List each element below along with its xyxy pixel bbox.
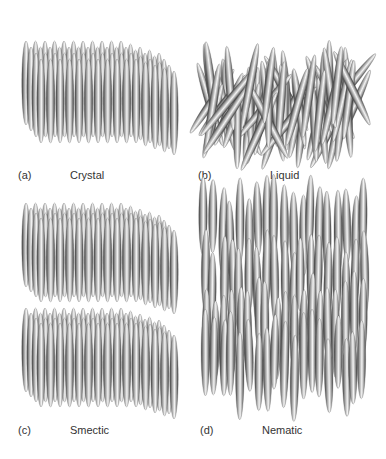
- molecule-rod: [94, 59, 102, 143]
- panel-a-letter: (a): [18, 169, 31, 181]
- panel-c-name: Smectic: [70, 424, 109, 436]
- molecule-rod: [122, 59, 130, 143]
- molecule-rod: [103, 323, 111, 407]
- molecule-rod: [160, 68, 168, 152]
- molecule-rod: [65, 59, 73, 143]
- molecule-rod: [132, 323, 140, 407]
- panel-smectic: [18, 190, 168, 420]
- panel-crystal: [18, 38, 168, 163]
- nematic-molecules-illustration: [200, 190, 370, 420]
- molecule-rod: [94, 218, 102, 302]
- molecule-rod: [103, 59, 111, 143]
- molecule-rod: [56, 218, 64, 302]
- molecule-rod: [122, 218, 130, 302]
- molecule-rod: [65, 323, 73, 407]
- molecule-rod: [357, 320, 366, 398]
- molecule-rod: [270, 314, 280, 389]
- molecule-rod: [160, 227, 168, 311]
- molecule-rod: [141, 221, 149, 305]
- molecule-rod: [84, 59, 92, 143]
- molecule-rod: [94, 323, 102, 407]
- molecule-rod: [37, 59, 45, 143]
- molecule-rod: [253, 182, 263, 256]
- molecule-rod: [132, 59, 140, 143]
- molecule-rod: [160, 332, 168, 416]
- molecule-rod: [75, 323, 83, 407]
- molecule-rod: [151, 65, 159, 149]
- molecule-rod: [132, 218, 140, 302]
- panel-a-name: Crystal: [70, 169, 104, 181]
- panel-d-name: Nematic: [262, 424, 302, 436]
- molecule-rod: [103, 218, 111, 302]
- molecule-rod: [65, 218, 73, 302]
- molecule-rod: [170, 230, 178, 314]
- molecule-rod: [37, 323, 45, 407]
- molecule-rod: [46, 323, 54, 407]
- molecule-rod: [226, 311, 235, 395]
- molecule-rod: [84, 323, 92, 407]
- panel-c-letter: (c): [18, 424, 31, 436]
- molecule-rod: [56, 323, 64, 407]
- molecule-rod: [46, 59, 54, 143]
- molecule-rod: [236, 178, 245, 263]
- molecule-rod: [113, 59, 121, 143]
- molecule-rod: [170, 335, 178, 419]
- molecule-rod: [151, 224, 159, 308]
- panel-nematic: [200, 190, 370, 420]
- panel-d-letter: (d): [200, 424, 213, 436]
- molecule-rod: [56, 59, 64, 143]
- crystal-molecules-illustration: [18, 38, 168, 163]
- panel-liquid: [205, 42, 365, 167]
- molecule-rod: [75, 59, 83, 143]
- molecule-rod: [84, 218, 92, 302]
- molecule-rod: [170, 71, 178, 155]
- molecule-rod: [122, 323, 130, 407]
- smectic-molecules-illustration: [18, 190, 168, 420]
- molecule-rod: [46, 218, 54, 302]
- molecule-rod: [113, 323, 121, 407]
- molecule-rod: [141, 326, 149, 410]
- molecule-rod: [141, 62, 149, 146]
- molecule-rod: [151, 329, 159, 413]
- molecule-rod: [342, 189, 352, 263]
- molecule-rod: [255, 333, 264, 411]
- molecule-rod: [208, 179, 217, 252]
- molecule-rod: [37, 218, 45, 302]
- liquid-molecules-illustration: [205, 42, 365, 167]
- molecule-rod: [299, 312, 308, 399]
- molecule-rod: [236, 332, 245, 420]
- molecule-rod: [201, 309, 210, 396]
- molecule-rod: [113, 218, 121, 302]
- molecule-rod: [244, 319, 254, 391]
- molecule-rod: [75, 218, 83, 302]
